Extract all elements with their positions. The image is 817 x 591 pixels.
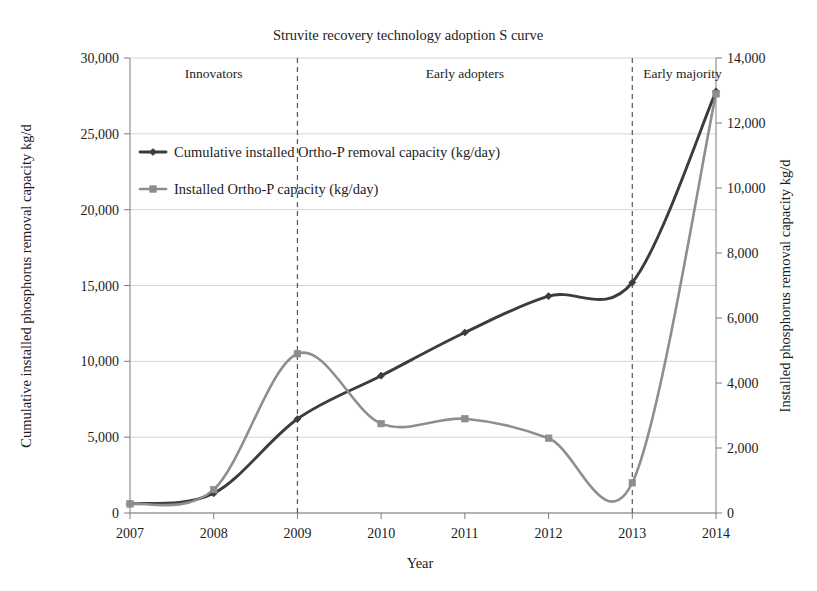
phase-labels: InnovatorsEarly adoptersEarly majority (185, 66, 722, 81)
right-tick-label: 0 (727, 506, 734, 521)
left-tick-label: 30,000 (81, 51, 120, 66)
data-point-cumulative-capacity-2012 (545, 293, 552, 300)
chart-title: Struvite recovery technology adoption S … (273, 27, 543, 43)
right-tick-label: 6,000 (727, 311, 759, 326)
x-tick-label: 2014 (702, 526, 730, 541)
data-point-installed-capacity-2012 (545, 435, 552, 442)
legend-label-1: Installed Ortho-P capacity (kg/day) (174, 181, 379, 198)
data-point-installed-capacity-2014 (713, 91, 720, 98)
left-tick-label: 0 (112, 506, 119, 521)
right-tick-label: 12,000 (727, 116, 766, 131)
phase-label-early-majority: Early majority (643, 66, 722, 81)
data-point-installed-capacity-2008 (210, 486, 217, 493)
data-point-installed-capacity-2013 (629, 480, 636, 487)
x-tick-label: 2011 (451, 526, 478, 541)
right-tick-label: 8,000 (727, 246, 759, 261)
x-tick-label: 2008 (200, 526, 228, 541)
x-tick-label: 2012 (535, 526, 563, 541)
right-tick-label: 10,000 (727, 181, 766, 196)
legend-swatch-marker-1 (150, 186, 157, 193)
left-tick-label: 25,000 (81, 127, 120, 142)
left-tick-label: 10,000 (81, 354, 120, 369)
x-axis-title: Year (407, 555, 434, 571)
right-tick-label: 4,000 (727, 376, 759, 391)
s-curve-chart: Struvite recovery technology adoption S … (0, 0, 817, 591)
chart-figure: Struvite recovery technology adoption S … (0, 0, 817, 591)
left-tick-label: 15,000 (81, 279, 120, 294)
left-tick-label: 20,000 (81, 203, 120, 218)
legend-swatch-marker-0 (149, 148, 156, 155)
phase-label-innovators: Innovators (185, 66, 243, 81)
x-tick-label: 2010 (367, 526, 395, 541)
left-tick-label: 5,000 (88, 430, 120, 445)
right-axis-ticks: 02,0004,0006,0008,00010,00012,00014,000 (716, 51, 766, 521)
right-tick-label: 2,000 (727, 441, 759, 456)
y2-axis-title: Installed phosphorus removal capacity kg… (777, 159, 793, 413)
y-axis-title: Cumulative installed phosphorus removal … (18, 124, 34, 448)
data-point-installed-capacity-2011 (462, 415, 469, 422)
data-point-installed-capacity-2010 (378, 420, 385, 427)
x-tick-label: 2013 (618, 526, 646, 541)
legend-label-0: Cumulative installed Ortho-P removal cap… (174, 144, 500, 161)
x-tick-label: 2009 (283, 526, 311, 541)
left-axis-ticks: 05,00010,00015,00020,00025,00030,000 (81, 51, 131, 521)
x-axis-ticks: 20072008200920102011201220132014 (116, 513, 730, 541)
right-tick-label: 14,000 (727, 51, 766, 66)
chart-legend: Cumulative installed Ortho-P removal cap… (140, 144, 500, 198)
data-point-installed-capacity-2007 (127, 501, 134, 508)
data-point-installed-capacity-2009 (294, 350, 301, 357)
x-tick-label: 2007 (116, 526, 144, 541)
phase-label-early-adopters: Early adopters (426, 66, 504, 81)
